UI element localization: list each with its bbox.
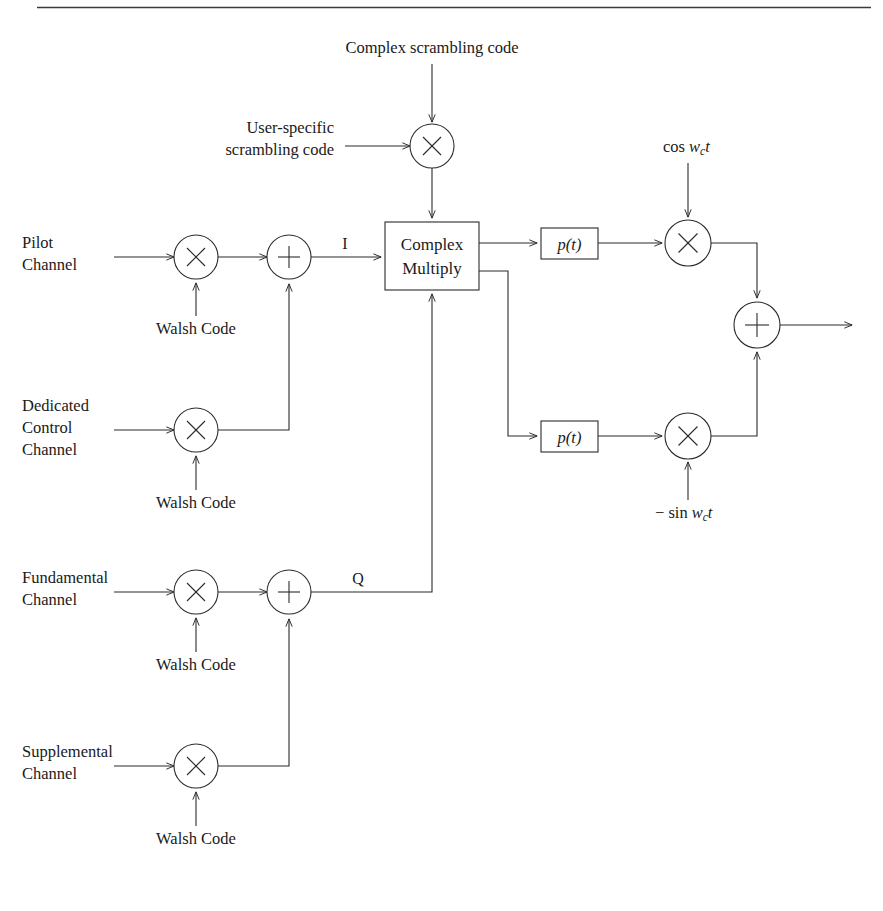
q-branch-adder [267, 570, 311, 614]
wire-supplemental-to-q-adder [218, 619, 289, 766]
svg-text:coswct: coswct [663, 137, 710, 157]
cos-omega: w [689, 137, 700, 156]
pulse-shape-filter-top: p(t) [541, 228, 598, 259]
dedicated-control-channel-label-line1: Dedicated [22, 396, 90, 415]
cos-time: t [705, 137, 710, 156]
walsh-code-label-fundamental: Walsh Code [156, 655, 236, 674]
pilot-channel-label-line1: Pilot [22, 233, 54, 252]
complex-multiply-label-line1: Complex [401, 235, 464, 254]
wire-complexmul-to-pulse-bottom [479, 271, 537, 436]
i-carrier-multiplier [665, 220, 711, 266]
walsh-code-label-supplemental: Walsh Code [156, 829, 236, 848]
q-carrier-multiplier [665, 413, 711, 459]
output-adder [734, 302, 780, 348]
walsh-code-label-pilot: Walsh Code [156, 319, 236, 338]
supplemental-channel-label-line2: Channel [22, 764, 77, 783]
complex-scrambling-code-label: Complex scrambling code [345, 38, 518, 57]
pilot-channel-label-line2: Channel [22, 255, 77, 274]
block-diagram-svg: Complex scrambling code User-specific sc… [0, 0, 883, 911]
scrambling-multiplier [410, 124, 454, 168]
walsh-code-label-dedicated: Walsh Code [156, 493, 236, 512]
svg-text:− sinwct: − sinwct [655, 503, 713, 523]
pilot-walsh-multiplier [174, 235, 218, 279]
dedicated-control-channel-label-line2: Control [22, 418, 73, 437]
complex-multiply-label-line2: Multiply [402, 259, 462, 278]
pulse-shape-label-top: p(t) [557, 235, 582, 254]
dedicated-control-channel-label-line3: Channel [22, 440, 77, 459]
user-specific-code-label-line2: scrambling code [225, 140, 334, 159]
wire-q-carrier-to-output-adder [711, 352, 757, 436]
fundamental-channel-label-line1: Fundamental [22, 568, 109, 587]
fundamental-walsh-multiplier [174, 570, 218, 614]
dedicated-walsh-multiplier [174, 408, 218, 452]
figure-canvas: Complex scrambling code User-specific sc… [0, 0, 883, 911]
sin-time: t [708, 503, 713, 522]
wire-dedicated-to-i-adder [218, 284, 289, 430]
wire-i-carrier-to-output-adder [711, 243, 757, 298]
wire-q-to-complex-multiply [311, 294, 432, 592]
complex-multiply-block: Complex Multiply [385, 222, 479, 290]
sin-prefix: − sin [655, 503, 688, 522]
fundamental-channel-label-line2: Channel [22, 590, 77, 609]
pulse-shape-label-bottom: p(t) [557, 428, 582, 447]
cos-carrier-label: coswct [663, 137, 710, 157]
supplemental-channel-label-line1: Supplemental [22, 742, 113, 761]
cos-prefix: cos [663, 137, 685, 156]
q-branch-label: Q [352, 570, 364, 587]
user-specific-code-label-line1: User-specific [246, 118, 334, 137]
supplemental-walsh-multiplier [174, 744, 218, 788]
pulse-shape-filter-bottom: p(t) [541, 421, 598, 452]
i-branch-label: I [342, 235, 347, 252]
sin-omega: w [692, 503, 703, 522]
sin-carrier-label: − sinwct [655, 503, 713, 523]
i-branch-adder [267, 235, 311, 279]
